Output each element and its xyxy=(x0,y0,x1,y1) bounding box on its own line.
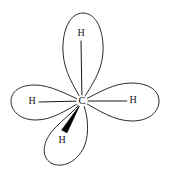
lobe-left-outline xyxy=(11,85,82,120)
methane-orbital-diagram: C H H H H xyxy=(0,0,173,180)
atom-label-carbon: C xyxy=(78,95,85,106)
bond-line-left xyxy=(39,101,82,102)
atom-label-hydrogen-left: H xyxy=(28,95,35,106)
atom-label-hydrogen-bottom-left: H xyxy=(58,134,65,145)
atom-label-hydrogen-right: H xyxy=(129,94,136,105)
lobe-right-outline xyxy=(82,83,159,121)
lobe-top-outline xyxy=(63,13,103,101)
bond-line-top xyxy=(81,41,82,101)
atom-label-hydrogen-top: H xyxy=(77,27,84,38)
molecule-svg-canvas: C H H H H xyxy=(0,0,173,180)
